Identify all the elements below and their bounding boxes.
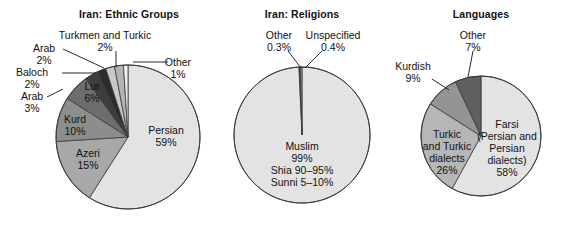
pie-label-line: Farsi xyxy=(495,118,518,130)
pie-label-line: Kurdish xyxy=(395,60,431,72)
pie-label-line: 9% xyxy=(405,72,420,84)
leader-line xyxy=(47,89,63,97)
pie-label-line: Other xyxy=(460,29,487,41)
pie-label-line: 99% xyxy=(291,152,312,164)
pie-label-other-1: Other1% xyxy=(165,56,192,80)
pie-label-arab-2: Arab2% xyxy=(33,42,55,66)
pie-chart-figure: Persian59%Azeri15%Kurd10%Lur6%Arab3%Balo… xyxy=(0,0,574,225)
pie-label-line: 3% xyxy=(24,102,39,114)
chart-title-religions: Iran: Religions xyxy=(265,8,339,20)
pie-label-kurdish: Kurdish9% xyxy=(395,60,431,84)
pie-label-line: Unspecified xyxy=(306,29,361,41)
pie-label-line: Turkic xyxy=(433,128,461,140)
leader-line xyxy=(432,79,449,90)
pie-label-line: Azeri xyxy=(76,147,100,159)
pie-label-azeri: Azeri15% xyxy=(76,147,100,171)
pie-label-baloch-2: Baloch2% xyxy=(16,66,48,90)
figure-canvas: Persian59%Azeri15%Kurd10%Lur6%Arab3%Balo… xyxy=(0,0,574,225)
leader-line xyxy=(305,51,322,68)
pie-label-line: Other xyxy=(266,29,293,41)
chart-title-ethnic-groups: Iran: Ethnic Groups xyxy=(79,8,179,20)
pie-label-turkmen-and-turkic-2: Turkmen and Turkic2% xyxy=(59,29,151,53)
pie-label-other-03: Other0.3% xyxy=(266,29,293,53)
pie-label-line: and Turkic xyxy=(423,140,471,152)
pie-label-line: 1% xyxy=(170,68,185,80)
pie-label-line: Turkmen and Turkic xyxy=(59,29,151,41)
pie-label-line: Persian xyxy=(489,142,525,154)
pie-label-line: 59% xyxy=(155,136,176,148)
pie-label-unspecified-04: Unspecified0.4% xyxy=(306,29,361,53)
pie-label-line: Lur xyxy=(84,80,100,92)
pie-label-line: 2% xyxy=(36,54,51,66)
pie-label-line: (Persian and xyxy=(477,130,537,142)
pie-label-line: 2% xyxy=(24,78,39,90)
pie-ethnic-groups xyxy=(56,65,200,209)
pie-label-line: Muslim xyxy=(285,140,319,152)
pie-label-line: 0.3% xyxy=(267,41,291,53)
pie-label-line: 2% xyxy=(97,41,112,53)
pie-label-line: Baloch xyxy=(16,66,48,78)
pie-label-line: 15% xyxy=(77,159,98,171)
pie-label-line: Sunni 5–10% xyxy=(271,176,333,188)
pie-label-line: 6% xyxy=(84,92,99,104)
pie-label-line: Shia 90–95% xyxy=(271,164,333,176)
title-layer: Iran: Ethnic GroupsIran: ReligionsLangua… xyxy=(79,8,509,20)
pie-label-line: 7% xyxy=(465,41,480,53)
pie-label-line: 10% xyxy=(64,125,85,137)
leader-line xyxy=(468,51,473,77)
pie-label-line: 58% xyxy=(496,166,517,178)
pie-label-line: Arab xyxy=(33,42,55,54)
pie-label-line: 0.4% xyxy=(321,41,345,53)
pie-label-line: dialects xyxy=(429,152,465,164)
pie-label-line: 26% xyxy=(436,164,457,176)
pie-label-kurd: Kurd10% xyxy=(64,113,86,137)
pie-label-line: Kurd xyxy=(64,113,86,125)
pie-label-line: Other xyxy=(165,56,192,68)
pie-label-lur: Lur6% xyxy=(84,80,100,104)
pie-label-line: Persian xyxy=(148,124,184,136)
pie-label-line: dialects) xyxy=(487,154,526,166)
pie-label-line: Arab xyxy=(21,90,43,102)
chart-title-languages: Languages xyxy=(453,8,509,20)
pie-label-arab-3: Arab3% xyxy=(21,90,43,114)
pie-label-other-7: Other7% xyxy=(460,29,487,53)
leader-line xyxy=(288,51,301,68)
